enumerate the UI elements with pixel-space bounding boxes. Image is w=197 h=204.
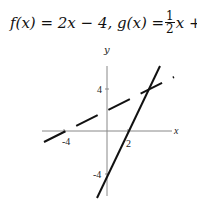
y-tick-label-4: 4 [97,84,102,95]
x-axis-label: x [173,125,179,136]
plot-area: -4 2 4 -4 x [0,0,197,204]
f-line-solid [97,66,160,198]
x-tick-label-neg4: -4 [62,136,70,147]
x-tick-label-2: 2 [126,138,131,149]
g-line-dashed [44,77,174,142]
y-tick-label-neg4: -4 [93,169,101,180]
